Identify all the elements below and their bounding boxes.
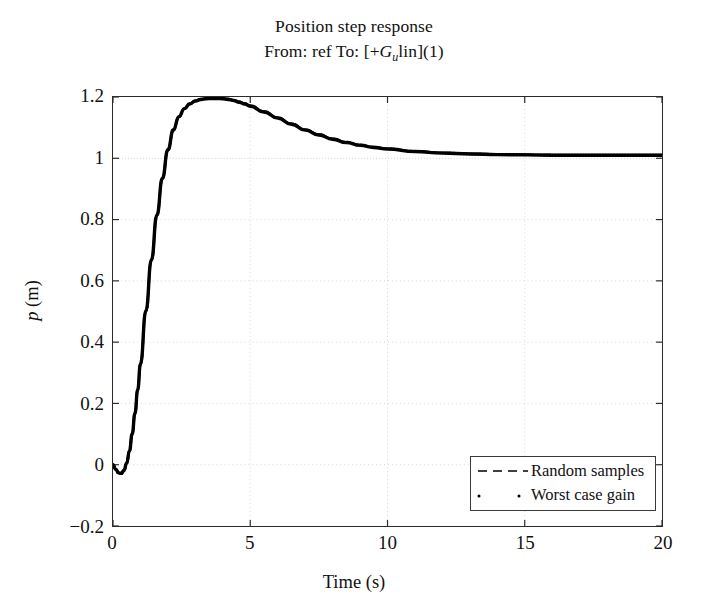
- y-axis-label-unit: (m): [22, 280, 42, 307]
- y-tick-label: 0.2: [22, 394, 104, 413]
- series-line-worst-case-gain: [113, 98, 662, 474]
- x-tick-label: 0: [82, 533, 142, 552]
- figure-canvas: Position step response From: ref To: [+G…: [0, 0, 708, 613]
- y-tick-label: 0.8: [22, 209, 104, 228]
- subtitle-suffix: lin](1): [398, 41, 443, 61]
- x-tick-label: 15: [495, 533, 555, 552]
- y-tick-label: 0: [22, 455, 104, 474]
- page-title: Position step response: [0, 14, 708, 39]
- legend-item-random-samples: Random samples: [475, 459, 651, 483]
- legend-label-random-samples: Random samples: [531, 462, 644, 480]
- x-tick-label: 5: [220, 533, 280, 552]
- subtitle-subscript: u: [392, 50, 398, 64]
- subtitle-symbol: G: [380, 41, 393, 61]
- legend-item-worst-case-gain: Worst case gain: [475, 483, 651, 507]
- data-curves: [113, 98, 662, 474]
- chart-subtitle: From: ref To: [+Gulin](1): [0, 39, 708, 70]
- y-axis-label-symbol: p: [22, 312, 42, 321]
- y-axis-label: p (m): [22, 241, 43, 361]
- dashed-line-key-icon: [475, 462, 531, 480]
- legend-label-worst-case-gain: Worst case gain: [531, 486, 635, 504]
- subtitle-prefix: From: ref To: [+: [264, 41, 379, 61]
- title-block: Position step response From: ref To: [+G…: [0, 14, 708, 70]
- legend: Random samples Worst case gain: [470, 456, 656, 511]
- y-tick-label: 1: [22, 148, 104, 167]
- y-tick-label: 1.2: [22, 86, 104, 105]
- x-tick-label: 10: [358, 533, 418, 552]
- x-axis-label: Time (s): [0, 572, 708, 593]
- dotted-line-key-icon: [475, 486, 531, 504]
- x-tick-label: 20: [633, 533, 693, 552]
